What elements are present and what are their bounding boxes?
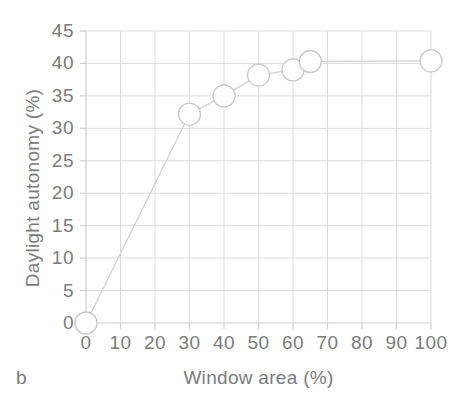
y-tick-label: 10	[52, 247, 74, 269]
x-tick-label: 100	[414, 332, 447, 354]
y-tick-label: 30	[52, 117, 74, 139]
y-tick-label: 45	[52, 20, 74, 42]
y-tick-label: 0	[63, 312, 74, 334]
y-tick-label: 25	[52, 150, 74, 172]
chart-figure: 051015202530354045 010203040506070809010…	[0, 0, 467, 415]
x-tick-label: 40	[213, 332, 235, 354]
x-tick-label: 0	[80, 332, 91, 354]
x-tick-label: 20	[144, 332, 166, 354]
y-tick-label: 15	[52, 215, 74, 237]
x-tick-label: 10	[109, 332, 131, 354]
x-axis-tick-labels: 0102030405060708090100	[86, 332, 431, 358]
x-tick-label: 90	[385, 332, 407, 354]
y-axis-title: Daylight autonomy (%)	[22, 78, 44, 298]
panel-label: b	[16, 367, 27, 389]
x-tick-label: 30	[178, 332, 200, 354]
y-tick-label: 35	[52, 85, 74, 107]
y-tick-label: 20	[52, 182, 74, 204]
x-tick-label: 80	[351, 332, 373, 354]
y-tick-label: 40	[52, 52, 74, 74]
x-axis-title: Window area (%)	[86, 367, 431, 389]
x-tick-label: 60	[282, 332, 304, 354]
x-tick-label: 70	[316, 332, 338, 354]
y-tick-label: 5	[63, 280, 74, 302]
x-tick-label: 50	[247, 332, 269, 354]
